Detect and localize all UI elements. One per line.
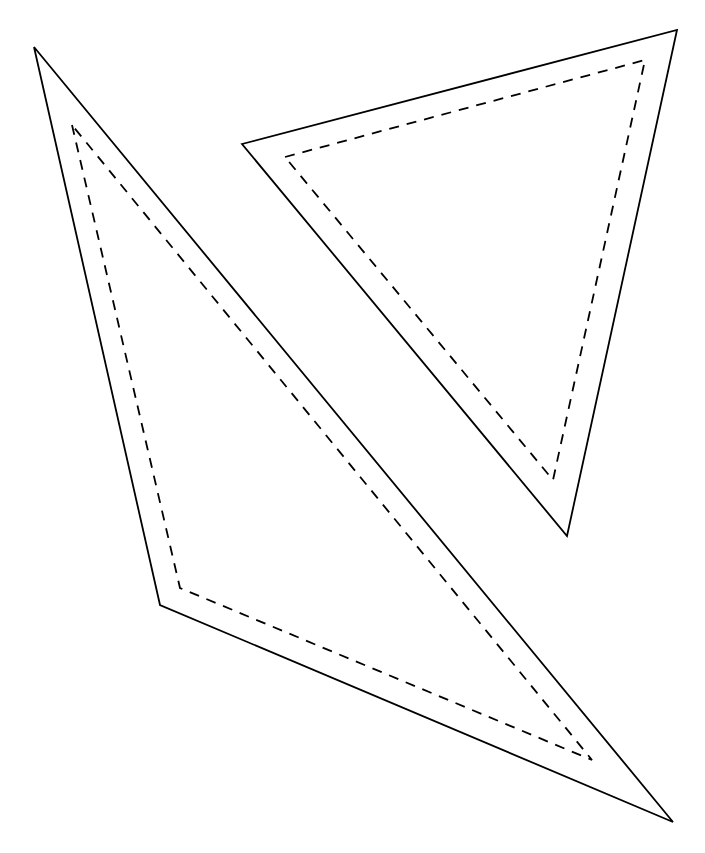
right-triangle: [242, 30, 677, 536]
left-triangle-dashed-guide: [72, 125, 592, 760]
triangle-cutout-diagram: [0, 0, 705, 853]
right-triangle-outline: [242, 30, 677, 536]
left-triangle-outline: [34, 47, 673, 822]
left-triangle: [34, 47, 673, 822]
